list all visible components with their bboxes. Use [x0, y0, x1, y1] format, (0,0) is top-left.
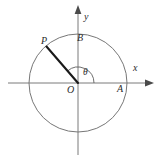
figure-canvas — [0, 0, 159, 163]
angle-label-theta: θ — [83, 68, 88, 78]
point-label-b: B — [77, 33, 83, 43]
y-axis-arrowhead — [75, 5, 82, 14]
radius-segment-OP — [47, 47, 79, 84]
x-axis-arrowhead — [145, 80, 154, 87]
point-label-a: A — [117, 84, 123, 94]
geometry-figure: P B A O θ x y — [0, 0, 159, 163]
point-label-p: P — [41, 36, 47, 46]
y-axis-label: y — [84, 12, 88, 22]
origin-label: O — [67, 85, 74, 95]
x-axis-label: x — [133, 63, 137, 73]
